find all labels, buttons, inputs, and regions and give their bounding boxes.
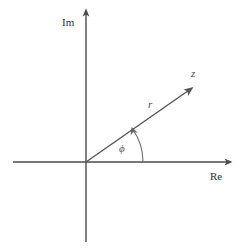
vector-z-label: z	[190, 67, 196, 79]
phasor-diagram-canvas: Im Re z r ϕ	[0, 0, 245, 249]
figure-background	[0, 0, 245, 249]
imaginary-axis-label: Im	[62, 16, 75, 28]
complex-plane-figure: Im Re z r ϕ	[0, 0, 245, 249]
magnitude-r-label: r	[148, 98, 153, 110]
real-axis-label: Re	[210, 170, 222, 182]
angle-phi-label: ϕ	[119, 142, 125, 154]
